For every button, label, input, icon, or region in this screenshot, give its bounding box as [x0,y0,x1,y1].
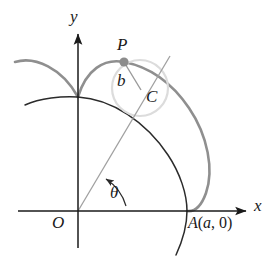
x-axis-label: x [254,197,262,214]
point-a-coord-a: a [203,214,211,231]
point-a-coord-zero: 0 [219,214,227,231]
figure-container: y x O P b C θ A(a, 0) [0,0,275,262]
diagram-canvas [0,0,275,262]
circle-center-label: C [146,88,157,105]
point-a-label: A(a, 0) [188,215,232,231]
point-p-marker [119,57,128,66]
point-p-label: P [117,36,127,53]
origin-label: O [52,214,64,231]
point-a-name: A [188,214,198,231]
point-a-separator: , [211,214,219,231]
angle-theta-label: θ [110,184,118,201]
point-a-close-paren: ) [227,214,232,231]
y-axis-label: y [70,8,78,25]
segment-b-label: b [117,72,126,89]
dark-arc [25,97,187,255]
